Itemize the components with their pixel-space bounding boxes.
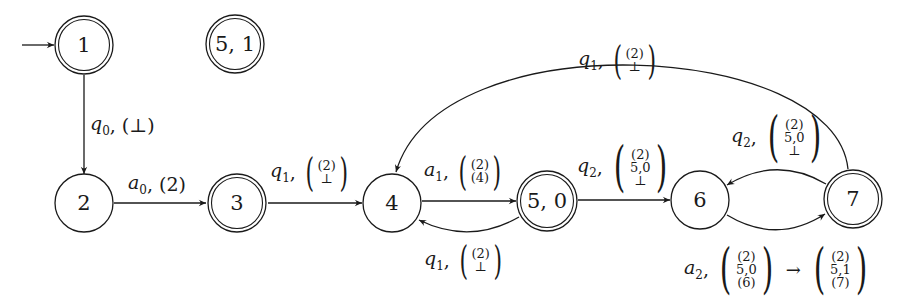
node-1-label: 1	[77, 33, 90, 57]
edge-7-6	[727, 170, 826, 185]
stack-vector: ( (2)⊥ )	[610, 40, 660, 80]
edge-4-50-label: a1 , ( (2)(4) )	[424, 151, 505, 191]
edge-7-6-label: q2 , ( (2)5,0⊥ )	[731, 110, 826, 164]
node-2-label: 2	[77, 191, 90, 215]
stack-vector-after: ( (2)5,1(7) )	[809, 242, 872, 296]
edge-50-6-label: q2 , ( (2)5,0⊥ )	[577, 140, 672, 194]
edge-1-2-label: q0 , (⊥)	[90, 112, 155, 138]
edge-6-7-label: a2 , ( (2)5,0(6) ) → ( (2)5,1(7) )	[684, 242, 872, 296]
node-3-label: 3	[230, 191, 243, 215]
stack-vector: ( (2)5,0⊥ )	[763, 110, 826, 164]
node-5-0-label: 5, 0	[527, 189, 567, 213]
rewrite-arrow-icon: →	[786, 259, 801, 280]
edge-3-4-label: q1 , ( (2)⊥ )	[270, 152, 352, 192]
edge-6-7	[727, 214, 825, 230]
node-7-label: 7	[846, 187, 859, 211]
stack-vector: ( (2)⊥ )	[302, 152, 352, 192]
automaton-diagram: 1 5, 1 2 3 4 5, 0 6 7 q0 , (⊥) a0 , (2) …	[0, 0, 906, 307]
edge-50-4	[419, 217, 519, 232]
edge-2-3-label: a0 , (2)	[128, 171, 186, 197]
stack-vector: ( (2)5,0⊥ )	[609, 140, 672, 194]
node-4-label: 4	[385, 191, 398, 215]
edge-7-4-label: q1 , ( (2)⊥ )	[578, 40, 660, 80]
node-6-label: 6	[693, 188, 706, 212]
stack-vector: ( (2)(4) )	[455, 151, 505, 191]
stack-vector-before: ( (2)5,0(6) )	[715, 242, 778, 296]
stack-vector: ( (2)⊥ )	[456, 240, 506, 280]
edge-50-4-label: q1 , ( (2)⊥ )	[424, 240, 506, 280]
node-5-1-label: 5, 1	[215, 32, 255, 56]
